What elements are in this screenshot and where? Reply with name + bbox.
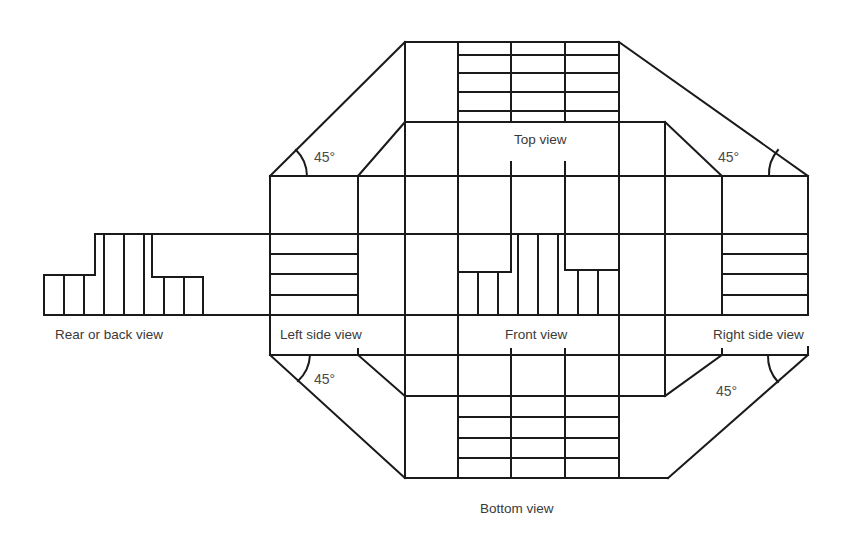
bottom-view-label: Bottom view xyxy=(480,502,554,516)
angle-label-top-right: 45° xyxy=(718,150,739,164)
rear-view-profile xyxy=(44,234,203,315)
angle-arc-top-left xyxy=(296,150,307,176)
grid-verticals xyxy=(358,42,808,478)
orthographic-projection-diagram xyxy=(0,0,854,540)
top-view-label: Top view xyxy=(514,133,567,147)
bottom-view-slats xyxy=(458,417,619,458)
right-side-view-label: Right side view xyxy=(713,328,804,342)
angle-label-bottom-right: 45° xyxy=(716,384,737,398)
top-view-slats xyxy=(458,55,619,111)
angle-arc-bottom-left xyxy=(298,355,310,381)
rear-view-label: Rear or back view xyxy=(55,328,163,342)
left-side-view-label: Left side view xyxy=(280,328,362,342)
angle-arc-bottom-right xyxy=(768,355,778,382)
front-view-label: Front view xyxy=(505,328,567,342)
angle-label-bottom-left: 45° xyxy=(314,372,335,386)
right-side-view-slats xyxy=(722,254,808,295)
angle-label-top-left: 45° xyxy=(314,150,335,164)
left-side-view-slats xyxy=(270,254,358,295)
front-view-profile xyxy=(458,234,619,315)
